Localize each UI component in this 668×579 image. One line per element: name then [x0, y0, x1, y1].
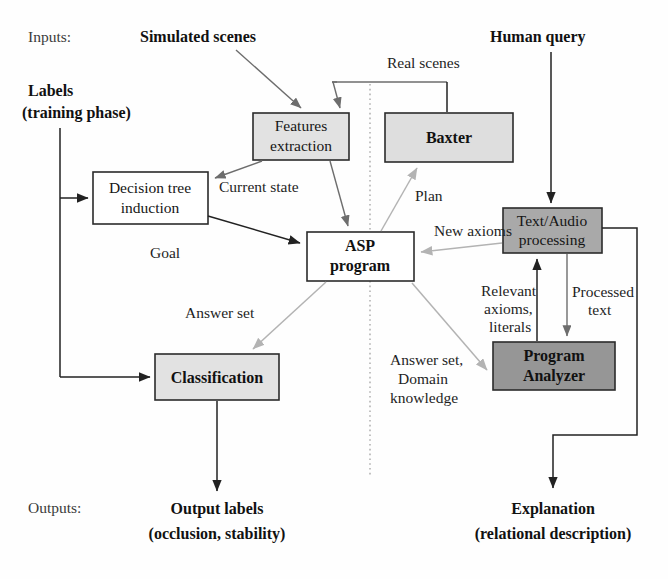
edge-label-processed-1: Processed: [572, 283, 634, 300]
edge-label-current-state: Current state: [219, 178, 299, 195]
edge-decision-tree-to-asp: [208, 216, 300, 243]
edge-label-new-axioms: Goal: [150, 244, 180, 261]
outputs-label: Outputs:: [28, 499, 81, 516]
edge-label-answer-set-domain-2: Domain: [398, 370, 448, 387]
edge-label-relevant-1: Relevant: [481, 282, 537, 299]
edge-label-relevant-2: axioms,: [484, 300, 533, 317]
output-labels-line1: Output labels: [171, 500, 264, 518]
inputs-label: Inputs:: [28, 28, 71, 45]
edge-label-processed-2: text: [588, 301, 612, 318]
node-decision-tree-induction[interactable]: Decision tree induction: [93, 172, 208, 224]
node-baxter[interactable]: Baxter: [385, 113, 513, 162]
node-features-extraction[interactable]: Features extraction: [253, 113, 349, 160]
edge-label-answer-set: Answer set: [185, 304, 255, 321]
edge-real-scenes-to-features: [333, 82, 340, 108]
edge-label-plan: Plan: [415, 187, 443, 204]
edge-asp-to-classification: [253, 282, 326, 349]
node-decision-tree-line1: Decision tree: [109, 179, 191, 196]
node-decision-tree-line2: induction: [121, 199, 180, 216]
edge-label-real-scenes: Real scenes: [387, 54, 460, 71]
node-features-extraction-line2: extraction: [270, 137, 332, 154]
node-text-audio-line1: Text/Audio: [517, 212, 588, 229]
output-explanation-line1: Explanation: [511, 500, 595, 518]
input-labels-line2: (training phase): [22, 104, 131, 122]
edge-label-goal: New axioms: [434, 222, 512, 239]
input-labels-line1: Labels: [28, 82, 73, 99]
output-labels-line2: (occlusion, stability): [149, 525, 286, 543]
node-classification[interactable]: Classification: [155, 354, 279, 400]
edge-features-to-decision-tree: [215, 161, 262, 178]
output-explanation-line2: (relational description): [475, 525, 632, 543]
node-text-audio-line2: processing: [519, 231, 586, 248]
edge-text-audio-to-asp: [421, 243, 502, 252]
node-program-analyzer-line1: Program: [523, 347, 585, 365]
edge-label-answer-set-domain-1: Answer set,: [390, 351, 463, 368]
node-baxter-label: Baxter: [426, 129, 472, 146]
edge-asp-to-baxter: [381, 168, 417, 231]
node-text-audio-processing[interactable]: Text/Audio processing: [503, 208, 602, 253]
node-classification-label: Classification: [171, 369, 264, 386]
edge-simulated-scenes-to-features: [236, 50, 301, 108]
input-simulated-scenes: Simulated scenes: [140, 28, 256, 45]
edge-label-answer-set-domain-3: knowledge: [390, 389, 458, 406]
system-architecture-diagram: Inputs: Outputs: Simulated scenes Labels…: [0, 0, 668, 579]
node-features-extraction-line1: Features: [275, 117, 328, 134]
node-program-analyzer-line2: Analyzer: [523, 367, 585, 385]
node-asp-program[interactable]: ASP program: [307, 232, 414, 281]
edge-features-to-asp: [330, 161, 348, 226]
node-program-analyzer[interactable]: Program Analyzer: [493, 342, 615, 390]
node-asp-program-line2: program: [330, 257, 391, 275]
node-asp-program-line1: ASP: [345, 237, 375, 254]
input-human-query: Human query: [490, 28, 586, 46]
edge-label-relevant-3: literals: [489, 318, 531, 335]
